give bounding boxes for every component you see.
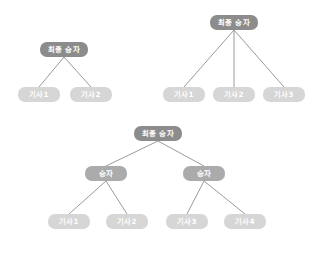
node-t2-root: 최종 승자: [210, 15, 258, 30]
diagram-canvas: 최종 승자기사1기사2최종 승자기사1기사2기사3최종 승자승자승자기사1기사2…: [0, 0, 336, 255]
edge-t2-root-to-t2-leaf-1: [184, 30, 234, 87]
edge-t3-mid-right-to-t3-leaf-4: [204, 181, 245, 214]
node-t2-leaf-1: 기사1: [163, 87, 205, 102]
edge-t1-root-to-t1-leaf-1: [39, 57, 64, 87]
edge-t3-root-to-t3-mid-right: [158, 141, 204, 166]
node-t1-root: 최종 승자: [40, 42, 88, 57]
edge-t3-mid-left-to-t3-leaf-2: [106, 181, 127, 214]
edge-t3-mid-right-to-t3-leaf-3: [187, 181, 204, 214]
node-t3-leaf-4: 기사4: [224, 214, 266, 229]
node-t3-root: 최종 승자: [134, 126, 182, 141]
node-t2-leaf-2: 기사2: [213, 87, 255, 102]
edge-t3-root-to-t3-mid-left: [106, 141, 158, 166]
edge-t3-mid-left-to-t3-leaf-1: [69, 181, 106, 214]
node-t1-leaf-2: 기사2: [70, 87, 112, 102]
node-t1-leaf-1: 기사1: [18, 87, 60, 102]
node-t3-mid-left: 승자: [85, 166, 127, 181]
node-t3-leaf-2: 기사2: [106, 214, 148, 229]
node-t3-leaf-3: 기사3: [166, 214, 208, 229]
node-t3-leaf-1: 기사1: [48, 214, 90, 229]
edge-t2-root-to-t2-leaf-3: [234, 30, 284, 87]
edge-t1-root-to-t1-leaf-2: [64, 57, 91, 87]
node-t3-mid-right: 승자: [183, 166, 225, 181]
node-t2-leaf-3: 기사3: [263, 87, 305, 102]
